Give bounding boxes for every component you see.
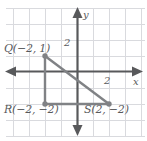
coordinate-plane-svg [0,0,147,141]
y-axis-label: y [83,10,89,20]
x-axis-tick-label-2: 2 [104,76,110,86]
vertex-label-q: Q(−2, 1) [4,43,50,54]
y-axis-tick-label-2: 2 [64,38,70,48]
coordinate-plane-figure: Q(−2, 1) R(−2, −2) S(2, −2) 2 2 y x [0,0,147,141]
vertex-label-r: R(−2, −2) [4,104,59,115]
y-axis-arrow-down [73,125,83,136]
axes [5,7,143,136]
vertex-label-s: S(2, −2) [84,104,129,115]
x-axis-arrow-left [5,67,16,77]
x-axis-label: x [133,77,139,87]
